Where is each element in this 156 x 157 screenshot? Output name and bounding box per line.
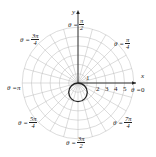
angle-label-pi: θ = π — [7, 84, 20, 92]
angle-label-3pi-over-4: θ = 3π4 — [20, 33, 39, 46]
radial-tick-1: 1 — [86, 74, 90, 82]
angle-label-pi-over-4: θ = π4 — [114, 37, 130, 50]
angle-label-7pi-over-4: θ = 7π4 — [113, 116, 132, 129]
radial-tick-4: 4 — [114, 85, 118, 93]
angle-label-5pi-over-4: θ = 5π4 — [18, 116, 37, 129]
radial-tick-2: 2 — [96, 85, 100, 93]
angle-label-0: θ = 0 — [131, 86, 144, 94]
angle-label-3pi-over-2: θ = 3π2 — [66, 136, 85, 149]
y-axis-label: y — [72, 8, 75, 16]
angle-label-pi-over-2: θ = π2 — [68, 18, 84, 31]
radial-tick-3: 3 — [105, 85, 109, 93]
y-axis-arrow-icon — [76, 10, 80, 14]
x-axis-label: x — [141, 72, 144, 80]
radial-tick-5: 5 — [123, 85, 127, 93]
